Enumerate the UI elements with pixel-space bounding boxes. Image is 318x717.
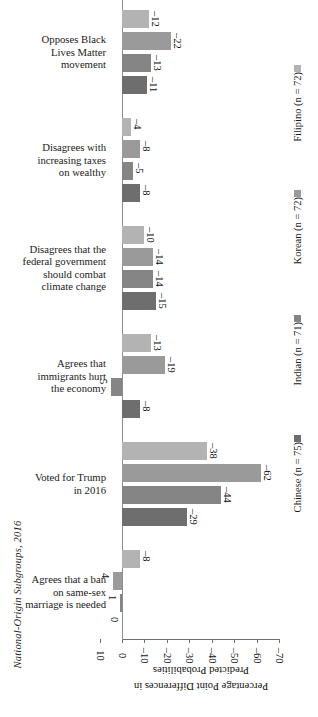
category-label-line: should combat xyxy=(0,268,106,280)
bar xyxy=(122,140,140,158)
zero-reference-line xyxy=(122,0,123,640)
bar xyxy=(122,270,153,288)
bar-value-label: –29 xyxy=(188,509,199,525)
category-label-line: the economy xyxy=(0,382,106,394)
bar xyxy=(122,356,165,374)
bar-value-label: –10 xyxy=(145,227,156,243)
bar-value-label: –14 xyxy=(154,271,165,287)
category-label-line: movement xyxy=(0,58,106,70)
bar-value-label: –22 xyxy=(172,33,183,49)
category-label-line: marriage is needed xyxy=(0,598,106,610)
category-label-line: in 2016 xyxy=(0,484,106,496)
bar xyxy=(113,572,122,590)
bar xyxy=(122,76,147,94)
category-label-line: on same-sex xyxy=(0,586,106,598)
bar xyxy=(122,226,144,244)
bar-value-label: 0 xyxy=(109,617,120,622)
chart-figure: National-Origin Subgroups, 2016 100–10–2… xyxy=(0,0,318,717)
bar xyxy=(122,400,140,418)
bar-value-label: 1 xyxy=(107,595,118,600)
category-label-line: Opposes Black xyxy=(0,33,106,45)
bar-value-label: –14 xyxy=(154,249,165,265)
bar-value-label: –12 xyxy=(150,11,161,27)
category-label-line: Disagrees with xyxy=(0,141,106,153)
category-label: Disagrees withincreasing taxeson wealthy xyxy=(0,141,106,178)
bar xyxy=(122,508,187,526)
bar xyxy=(122,184,140,202)
bar xyxy=(122,464,261,482)
bar-value-label: –8 xyxy=(141,141,152,152)
category-label-line: Agrees that xyxy=(0,357,106,369)
category-label-line: on wealthy xyxy=(0,166,106,178)
category-label: Opposes BlackLives Mattermovement xyxy=(0,33,106,70)
bar-value-label: –4 xyxy=(132,119,143,130)
bars-layer: –12–22–13–11Opposes BlackLives Mattermov… xyxy=(0,0,318,717)
category-label-line: climate change xyxy=(0,280,106,292)
category-label-line: Disagrees that the xyxy=(0,243,106,255)
bar xyxy=(120,594,122,612)
bar xyxy=(122,486,221,504)
bar-value-label: –13 xyxy=(152,55,163,71)
category-label-line: Voted for Trump xyxy=(0,471,106,483)
bar-value-label: –62 xyxy=(262,465,273,481)
bar xyxy=(122,334,151,352)
category-label-line: Agrees that a ban xyxy=(0,573,106,585)
bar-value-label: –13 xyxy=(152,335,163,351)
bar xyxy=(122,32,171,50)
bar xyxy=(111,378,122,396)
bar xyxy=(122,10,149,28)
bar-value-label: –15 xyxy=(157,293,168,309)
bar-value-label: –38 xyxy=(208,443,219,459)
category-label: Agrees that a banon same-sexmarriage is … xyxy=(0,573,106,610)
bar xyxy=(122,162,133,180)
bar-value-label: –44 xyxy=(222,487,233,503)
category-label: Voted for Trumpin 2016 xyxy=(0,471,106,496)
bar-value-label: –19 xyxy=(166,357,177,373)
category-label-line: Lives Matter xyxy=(0,46,106,58)
category-label: Disagrees that thefederal governmentshou… xyxy=(0,243,106,293)
category-label: Agrees thatimmigrants hurtthe economy xyxy=(0,357,106,394)
bar xyxy=(122,54,151,72)
category-label-line: immigrants hurt xyxy=(0,370,106,382)
bar xyxy=(122,292,156,310)
bar xyxy=(122,248,153,266)
category-label-line: federal government xyxy=(0,255,106,267)
bar-value-label: –8 xyxy=(141,185,152,196)
bar xyxy=(122,442,207,460)
bar-value-label: –11 xyxy=(148,77,159,92)
bar-value-label: –5 xyxy=(134,163,145,174)
bar xyxy=(122,550,140,568)
bar xyxy=(122,118,131,136)
bar-value-label: –8 xyxy=(141,401,152,412)
category-label-line: increasing taxes xyxy=(0,154,106,166)
bar-value-label: –8 xyxy=(141,551,152,562)
